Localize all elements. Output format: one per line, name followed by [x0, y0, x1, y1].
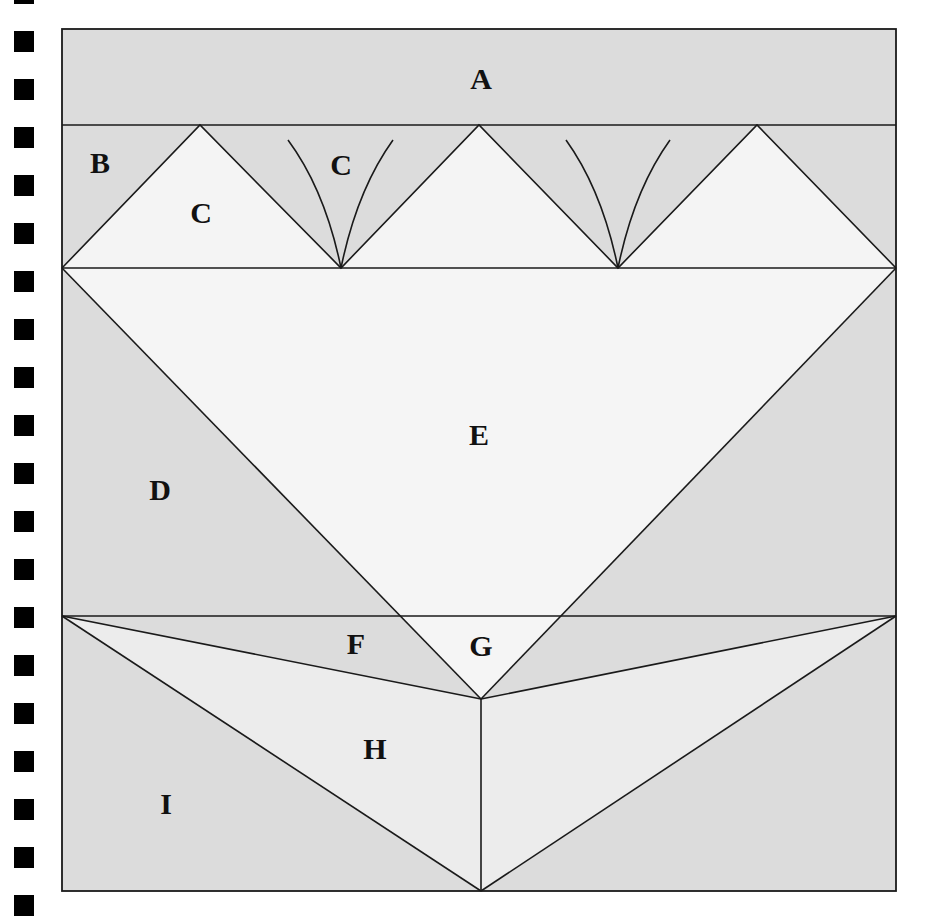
label-a: A	[470, 62, 492, 95]
label-d: D	[149, 473, 171, 506]
label-c-1: C	[190, 196, 212, 229]
label-f: F	[347, 627, 365, 660]
label-b: B	[90, 146, 110, 179]
label-h: H	[363, 732, 386, 765]
label-g: G	[469, 629, 492, 662]
label-c-2: C	[330, 148, 352, 181]
label-i: I	[160, 787, 172, 820]
label-e: E	[469, 418, 489, 451]
